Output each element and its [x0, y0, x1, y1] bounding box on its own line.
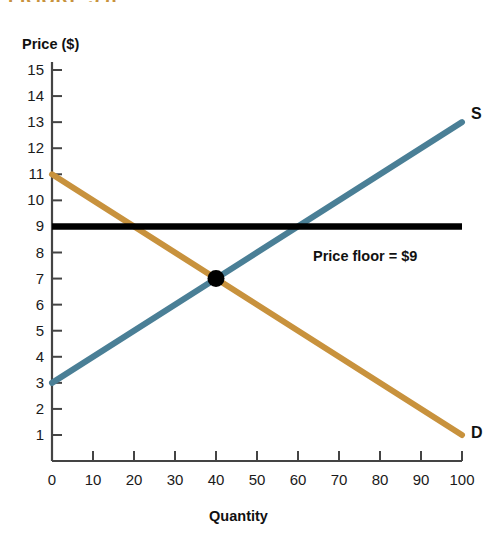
x-tick-label: 20 — [114, 472, 154, 487]
demand-curve — [52, 174, 462, 435]
x-tick-label: 70 — [319, 472, 359, 487]
y-tick-label: 12 — [14, 140, 44, 155]
y-tick-label: 14 — [14, 88, 44, 103]
y-tick-label: 15 — [14, 62, 44, 77]
y-tick-label: 10 — [14, 192, 44, 207]
demand-curve-label: D — [471, 424, 483, 442]
x-tick-label: 60 — [278, 472, 318, 487]
y-tick-label: 9 — [14, 218, 44, 233]
x-tick-label: 10 — [73, 472, 113, 487]
x-axis-title: Quantity — [0, 508, 477, 524]
y-tick-label: 2 — [14, 401, 44, 416]
y-tick-label: 11 — [14, 166, 44, 181]
y-tick-label: 6 — [14, 297, 44, 312]
bottom-margin — [0, 540, 477, 551]
y-tick-label: 5 — [14, 323, 44, 338]
y-tick-label: 3 — [14, 375, 44, 390]
supply-curve-label: S — [471, 105, 482, 123]
y-tick-label: 8 — [14, 245, 44, 260]
x-tick-label: 90 — [401, 472, 441, 487]
y-tick-label: 4 — [14, 349, 44, 364]
x-tick-marks — [93, 451, 462, 461]
y-tick-label: 7 — [14, 271, 44, 286]
y-tick-label: 1 — [14, 427, 44, 442]
equilibrium-point — [208, 270, 225, 287]
x-tick-label: 40 — [196, 472, 236, 487]
x-tick-label: 80 — [360, 472, 400, 487]
x-tick-label: 30 — [155, 472, 195, 487]
price-floor-label: Price floor = $9 — [313, 248, 417, 264]
x-tick-label: 0 — [32, 472, 72, 487]
x-tick-label: 100 — [442, 472, 482, 487]
x-tick-label: 50 — [237, 472, 277, 487]
y-tick-label: 13 — [14, 114, 44, 129]
